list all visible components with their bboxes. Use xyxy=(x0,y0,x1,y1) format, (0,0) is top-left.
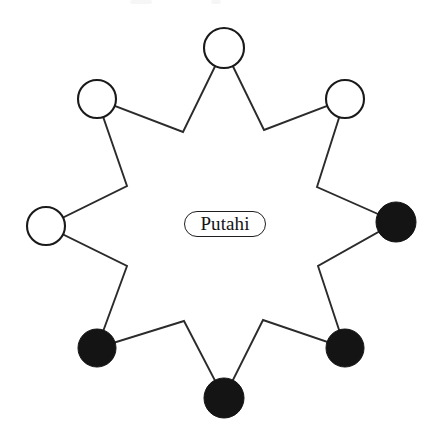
node-bottom[interactable] xyxy=(204,378,244,418)
node-top-right[interactable] xyxy=(326,80,364,118)
node-bottom-left[interactable] xyxy=(78,329,116,367)
node-top-left[interactable] xyxy=(78,80,116,118)
node-top[interactable] xyxy=(204,28,244,68)
node-right[interactable] xyxy=(376,202,416,242)
node-left[interactable] xyxy=(27,207,65,245)
figure-canvas: Putahi xyxy=(0,0,440,439)
center-label-text: Putahi xyxy=(200,214,249,234)
center-label-putahi[interactable]: Putahi xyxy=(184,211,266,237)
node-bottom-right[interactable] xyxy=(326,329,364,367)
